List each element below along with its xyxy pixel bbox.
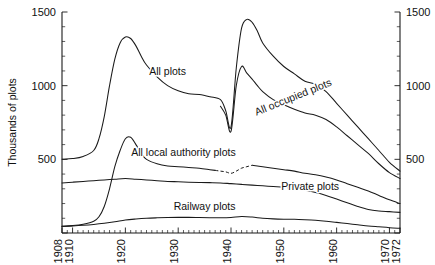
x-axis-label-1940: 1940	[221, 239, 233, 263]
x-axis-label-1930: 1930	[168, 239, 180, 263]
x-axis-label-1960: 1960	[327, 239, 339, 263]
all-local-authority-plots-label: All local authority plots	[131, 146, 235, 158]
railway-plots-label: Railway plots	[174, 200, 236, 212]
series-line-all-local-authority-plots-dashed	[215, 165, 252, 173]
all-occupied-plots-label: All occupied plots	[253, 76, 333, 118]
x-axis-label-1910: 1910	[63, 239, 75, 263]
y-axis-label-left-1000: 1000	[32, 80, 56, 92]
x-axis-label-1972: 1972	[390, 239, 402, 263]
x-axis-label-1950: 1950	[274, 239, 286, 263]
chart-generated-layer: 5005001000100015001500190819101920193019…	[6, 6, 430, 263]
private-plots-label: Private plots	[281, 180, 339, 192]
y-axis-label-left-1500: 1500	[32, 6, 56, 18]
chart-container: 5005001000100015001500190819101920193019…	[0, 0, 435, 265]
y-axis-title: Thousands of plots	[6, 78, 18, 167]
y-axis-label-left-500: 500	[38, 153, 56, 165]
y-axis-label-right-1500: 1500	[406, 6, 430, 18]
y-axis-label-right-500: 500	[406, 153, 424, 165]
y-axis-label-right-1000: 1000	[406, 80, 430, 92]
series-line-railway-plots	[62, 216, 400, 228]
line-chart: 5005001000100015001500190819101920193019…	[0, 0, 435, 265]
all-plots-label: All plots	[149, 65, 186, 77]
x-axis-label-1920: 1920	[115, 239, 127, 263]
